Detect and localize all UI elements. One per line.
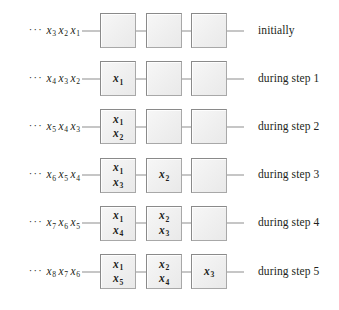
- row-step-4: ···x7x6x5x1x4x2x3during step 4: [0, 201, 339, 245]
- variable-subscript: 1: [120, 78, 124, 87]
- row-step-1: ···x4x3x2x1during step 1: [0, 57, 339, 101]
- variable-x3: x3: [46, 24, 56, 36]
- register-cell-2: x2x3: [146, 206, 182, 241]
- variable-subscript: 3: [52, 29, 56, 38]
- wire-segment-1: [82, 78, 100, 79]
- variable-subscript: 1: [120, 118, 124, 127]
- wire-segment-1: [82, 223, 100, 224]
- register-cell-2: [146, 109, 182, 144]
- variable-x2: x2: [159, 259, 169, 271]
- variable-base: x: [113, 113, 119, 125]
- variable-x1: x1: [113, 114, 123, 126]
- wire-segment-4: [227, 271, 244, 272]
- variable-x7: x7: [58, 265, 68, 277]
- variable-subscript: 1: [120, 215, 124, 224]
- variable-subscript: 4: [166, 278, 170, 287]
- register-cell-2: [146, 61, 182, 96]
- register-cell-1: x1x3: [100, 158, 136, 193]
- variable-subscript: 4: [120, 229, 124, 238]
- variable-x8: x8: [46, 265, 56, 277]
- variable-subscript: 4: [52, 78, 56, 87]
- row-step-5: ···x8x7x6x1x5x2x4x3during step 5: [0, 250, 339, 294]
- register-cell-1: x1x2: [100, 109, 136, 144]
- row-caption: initially: [258, 25, 295, 37]
- input-sequence: ···x4x3x2: [29, 73, 80, 85]
- row-initially: ···x3x2x1initially: [0, 9, 339, 53]
- variable-base: x: [159, 272, 165, 284]
- variable-x3: x3: [204, 266, 214, 278]
- variable-x2: x2: [70, 72, 80, 84]
- variable-subscript: 2: [76, 78, 80, 87]
- variable-base: x: [113, 209, 119, 221]
- register-cell-2: [146, 13, 182, 48]
- variable-subscript: 2: [166, 263, 170, 272]
- ellipsis-icon: ···: [29, 24, 43, 35]
- row-caption: during step 5: [258, 266, 319, 278]
- row-step-3: ···x6x5x4x1x3x2during step 3: [0, 153, 339, 197]
- variable-subscript: 3: [64, 78, 68, 87]
- variable-x5: x5: [46, 120, 56, 132]
- variable-base: x: [113, 127, 119, 139]
- variable-x4: x4: [58, 120, 68, 132]
- variable-subscript: 2: [120, 133, 124, 142]
- variable-subscript: 6: [52, 174, 56, 183]
- register-cell-3: x3: [191, 254, 227, 289]
- register-cell-1: [100, 13, 136, 48]
- variable-subscript: 1: [120, 167, 124, 176]
- variable-base: x: [159, 168, 165, 180]
- variable-subscript: 3: [76, 126, 80, 135]
- variable-x1: x1: [113, 162, 123, 174]
- variable-x1: x1: [113, 73, 123, 85]
- wire-segment-1: [82, 126, 100, 127]
- variable-subscript: 4: [64, 126, 68, 135]
- variable-subscript: 1: [76, 29, 80, 38]
- register-cell-1: x1x4: [100, 206, 136, 241]
- variable-x5: x5: [70, 217, 80, 229]
- wire-segment-1: [82, 30, 100, 31]
- variable-x3: x3: [159, 225, 169, 237]
- register-cell-3: [191, 158, 227, 193]
- variable-subscript: 7: [64, 270, 68, 279]
- variable-x4: x4: [70, 168, 80, 180]
- wire-segment-1: [82, 175, 100, 176]
- register-cell-3: [191, 206, 227, 241]
- pipeline-diagram: ···x3x2x1initially···x4x3x2x1during step…: [0, 0, 339, 310]
- ellipsis-icon: ···: [29, 168, 43, 179]
- register-cell-3: [191, 61, 227, 96]
- variable-subscript: 2: [166, 174, 170, 183]
- variable-base: x: [113, 258, 119, 270]
- row-step-2: ···x5x4x3x1x2during step 2: [0, 105, 339, 149]
- variable-x3: x3: [113, 177, 123, 189]
- variable-base: x: [159, 224, 165, 236]
- variable-x6: x6: [46, 168, 56, 180]
- wire-segment-4: [227, 223, 244, 224]
- variable-x2: x2: [159, 169, 169, 181]
- variable-base: x: [204, 265, 210, 277]
- variable-base: x: [159, 209, 165, 221]
- variable-x3: x3: [70, 120, 80, 132]
- variable-subscript: 5: [120, 278, 124, 287]
- register-cell-2: x2x4: [146, 254, 182, 289]
- variable-base: x: [113, 272, 119, 284]
- variable-x4: x4: [46, 72, 56, 84]
- register-cell-2: x2: [146, 158, 182, 193]
- variable-x5: x5: [113, 273, 123, 285]
- variable-subscript: 8: [52, 270, 56, 279]
- variable-x2: x2: [159, 210, 169, 222]
- variable-subscript: 5: [52, 126, 56, 135]
- variable-x1: x1: [113, 259, 123, 271]
- wire-segment-4: [227, 78, 244, 79]
- variable-subscript: 5: [64, 174, 68, 183]
- input-sequence: ···x8x7x6: [29, 266, 80, 278]
- ellipsis-icon: ···: [29, 265, 43, 276]
- wire-segment-1: [82, 271, 100, 272]
- wire-segment-4: [227, 175, 244, 176]
- input-sequence: ···x6x5x4: [29, 169, 80, 181]
- variable-subscript: 2: [64, 29, 68, 38]
- input-sequence: ···x3x2x1: [29, 25, 80, 37]
- variable-subscript: 7: [52, 222, 56, 231]
- variable-subscript: 4: [76, 174, 80, 183]
- variable-subscript: 5: [76, 222, 80, 231]
- variable-subscript: 3: [120, 181, 124, 190]
- register-cell-1: x1: [100, 61, 136, 96]
